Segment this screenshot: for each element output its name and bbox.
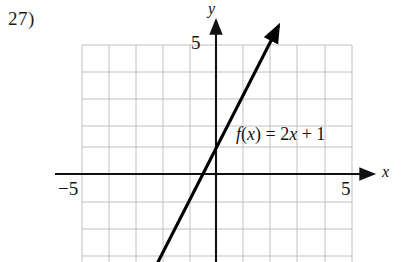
equation-variable: x: [289, 124, 297, 144]
y-axis-tick-label-5: 5: [191, 32, 201, 54]
function-equation-label: f(x) = 2x + 1: [236, 124, 325, 145]
equation-argument: x: [247, 124, 255, 144]
x-axis-tick-label-negative-5: −5: [58, 178, 78, 200]
equation-equals-sign: =: [266, 124, 276, 144]
coordinate-graph: [0, 0, 411, 262]
x-axis-label: x: [382, 163, 389, 181]
x-axis-tick-label-5: 5: [341, 178, 351, 200]
equation-constant: 1: [316, 124, 325, 144]
y-axis-label: y: [208, 0, 215, 18]
equation-plus-sign: +: [302, 124, 312, 144]
worksheet-page: 27): [0, 0, 411, 262]
equation-paren-close: ): [255, 124, 261, 144]
equation-coefficient: 2: [280, 124, 289, 144]
